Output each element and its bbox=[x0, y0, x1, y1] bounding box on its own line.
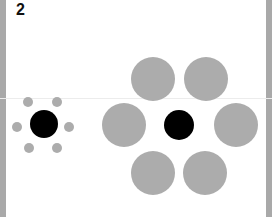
large-surround-group-surround-circle bbox=[131, 151, 175, 195]
small-surround-group-surround-circle bbox=[52, 143, 62, 153]
small-surround-group-surround-circle bbox=[23, 97, 33, 107]
large-surround-group-center-circle bbox=[164, 110, 194, 140]
large-surround-group-surround-circle bbox=[214, 103, 258, 147]
large-surround-group-surround-circle bbox=[131, 57, 175, 101]
large-surround-group-surround-circle bbox=[184, 57, 228, 101]
small-surround-group-surround-circle bbox=[52, 97, 62, 107]
small-surround-group-surround-circle bbox=[24, 143, 34, 153]
scan-artifact-line bbox=[0, 98, 272, 99]
large-surround-group-surround-circle bbox=[102, 103, 146, 147]
illusion-figure: 2 bbox=[0, 0, 272, 217]
small-surround-group-surround-circle bbox=[12, 122, 22, 132]
left-border bbox=[0, 0, 6, 217]
right-border bbox=[266, 0, 272, 217]
small-surround-group-surround-circle bbox=[64, 122, 74, 132]
small-surround-group-center-circle bbox=[30, 110, 58, 138]
figure-number-label: 2 bbox=[16, 1, 25, 19]
large-surround-group-surround-circle bbox=[183, 151, 227, 195]
